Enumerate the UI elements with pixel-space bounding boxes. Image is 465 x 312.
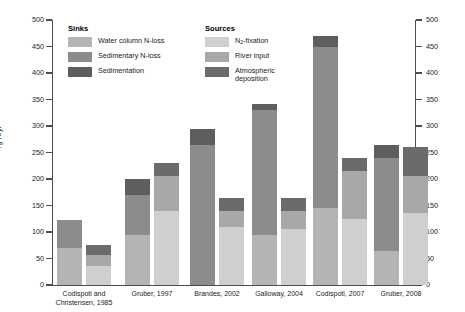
y-tick-left-250: [46, 152, 52, 153]
sinks-legend-item: Sedimentary N-loss: [68, 52, 198, 62]
bar-segment: [154, 211, 179, 285]
legend-title-sinks: Sinks: [68, 24, 88, 33]
y-tick-label-left-50: 50: [36, 255, 44, 262]
y-tick-label-left-150: 150: [32, 202, 44, 209]
sources-legend-swatch: [205, 52, 229, 62]
y-tick-left-100: [46, 231, 52, 232]
sources-legend-swatch: [205, 67, 229, 77]
bar-segment: [252, 110, 277, 235]
sinks-legend-label: Sedimentary N-loss: [98, 52, 161, 61]
bar-segment: [154, 163, 179, 176]
bar-segment: [403, 147, 428, 176]
bar-segment: [252, 235, 277, 285]
x-axis-label: Gruber, 2008: [362, 290, 440, 299]
bar-segment: [403, 176, 428, 213]
y-tick-left-500: [46, 19, 52, 20]
y-axis-left-line: [52, 20, 53, 286]
y-tick-label-left-350: 350: [32, 96, 44, 103]
bar-segment: [313, 208, 338, 285]
sinks-legend-item: Sedimentation: [68, 67, 198, 77]
bar-segment: [374, 158, 399, 251]
sources-legend-label: Atmospheric deposition: [235, 67, 275, 84]
bar-segment: [219, 211, 244, 227]
bar-segment: [86, 245, 111, 255]
sources-legend-label: N2-fixation: [235, 37, 268, 46]
y-tick-left-150: [46, 205, 52, 206]
y-tick-label-left-400: 400: [32, 69, 44, 76]
sinks-legend-label: Sedimentation: [98, 67, 144, 76]
sources-legend-item: River input: [205, 52, 335, 62]
sinks-legend-swatch: [68, 67, 92, 77]
bar-segment: [342, 219, 367, 285]
bar-segment: [125, 235, 150, 285]
x-axis-label: Codispoti and Christensen, 1985: [45, 290, 123, 307]
bar-segment: [86, 266, 111, 285]
bar-segment: [374, 145, 399, 158]
nitrogen-budget-chart: Tg N/yr 00505010010015015020020025025030…: [0, 0, 465, 312]
x-axis-line: [52, 285, 416, 286]
bar-segment: [219, 198, 244, 211]
y-tick-label-left-100: 100: [32, 228, 44, 235]
bar-segment: [281, 229, 306, 285]
y-tick-label-left-200: 200: [32, 175, 44, 182]
y-tick-label-left-450: 450: [32, 43, 44, 50]
y-tick-left-400: [46, 72, 52, 73]
y-tick-label-left-500: 500: [32, 16, 44, 23]
bar-segment: [281, 198, 306, 211]
bar-segment: [219, 227, 244, 285]
sources-legend-swatch: [205, 37, 229, 47]
legend-title-sources: Sources: [205, 24, 235, 33]
bar-segment: [190, 145, 215, 285]
bar-segment: [154, 176, 179, 210]
y-tick-label-left-0: 0: [40, 281, 44, 288]
bar-segment: [125, 195, 150, 235]
bar-segment: [125, 179, 150, 195]
y-tick-left-200: [46, 178, 52, 179]
sinks-legend-swatch: [68, 37, 92, 47]
bar-segment: [281, 211, 306, 230]
bar-segment: [190, 129, 215, 145]
sources-legend-item: Atmospheric deposition: [205, 67, 335, 77]
bar-segment: [252, 104, 277, 110]
bar-segment: [57, 220, 82, 248]
y-tick-left-300: [46, 125, 52, 126]
sinks-legend-label: Water column N-loss: [98, 37, 164, 46]
y-axis-label: Tg N/yr: [0, 126, 3, 150]
bar-group: [374, 20, 430, 285]
bar-segment: [86, 255, 111, 267]
sources-legend-label: River input: [235, 52, 269, 61]
y-tick-left-0: [46, 284, 52, 285]
sources-legend-item: N2-fixation: [205, 37, 335, 47]
sinks-legend-swatch: [68, 52, 92, 62]
bar-segment: [342, 158, 367, 171]
bar-segment: [57, 248, 82, 285]
sinks-legend-item: Water column N-loss: [68, 37, 198, 47]
y-tick-left-350: [46, 99, 52, 100]
bar-segment: [342, 171, 367, 219]
bar-segment: [403, 213, 428, 285]
y-tick-left-450: [46, 46, 52, 47]
bar-segment: [374, 251, 399, 285]
y-tick-label-left-250: 250: [32, 149, 44, 156]
y-tick-label-left-300: 300: [32, 122, 44, 129]
y-tick-left-50: [46, 258, 52, 259]
